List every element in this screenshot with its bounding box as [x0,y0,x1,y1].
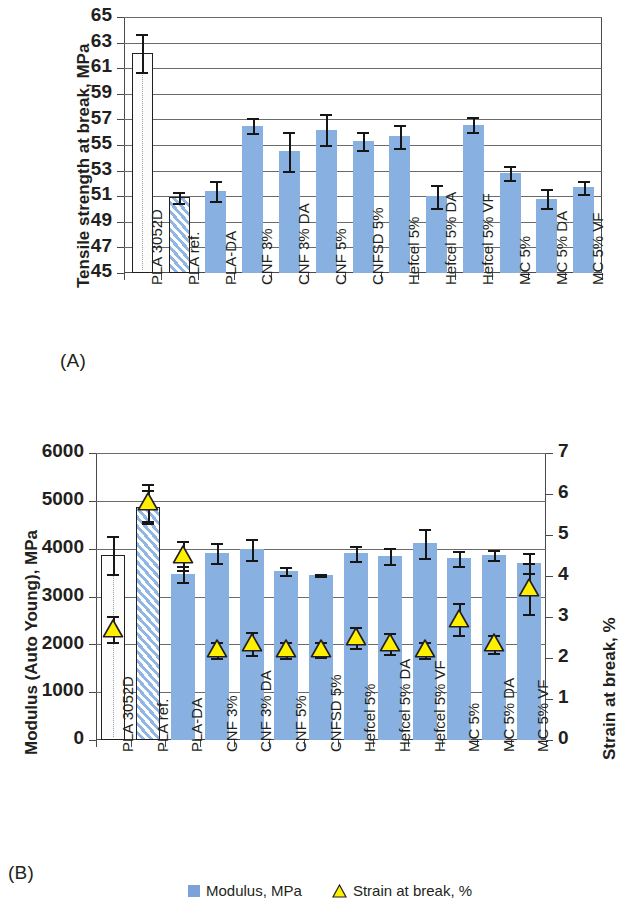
gridline [96,549,546,550]
x-tick-label: CNF 5% [332,228,349,285]
error-bar-cap [246,539,258,541]
x-tick-label: CNF 3% [258,228,275,285]
y-tick-mark [89,644,96,645]
error-bar-cap [523,614,535,616]
x-tick-label: CNF 3% [223,695,240,752]
error-bar [142,34,144,72]
x-tick-label: Hefcel 5% DA [396,659,413,752]
error-bar-cap [357,150,369,152]
error-bar [425,529,427,558]
error-bar-cap [107,536,119,538]
error-bar-cap [211,563,223,565]
error-bar-cap [177,541,189,543]
y-tick-label: 57 [0,108,112,127]
strain-triangle-icon [332,884,347,898]
error-bar [547,189,549,208]
x-tick-label: PLA-DA [188,698,205,752]
y-tick-label: 4000 [0,537,84,556]
x-tick-label: Hefcel 5% [405,217,422,285]
error-bar-cap [142,484,154,486]
strain-triangle-marker [310,639,332,658]
x-tick-label: PLA 3052D [119,676,136,752]
y-tick-mark [89,692,96,693]
error-bar-cap [142,521,154,523]
y-tick-label: 45 [0,261,112,280]
error-bar-cap [384,548,396,550]
error-bar-cap [453,551,465,553]
y-tick-label-secondary: 1 [558,687,584,706]
x-tick-label: CNF 3% DA [257,670,274,752]
y-tick-mark [117,43,124,44]
error-bar-cap [357,132,369,134]
y-tick-label: 63 [0,31,112,50]
error-bar-cap [283,132,295,134]
error-bar-cap [177,570,189,572]
strain-triangle-marker [448,609,470,628]
error-bar-cap [453,566,465,568]
error-bar-cap [578,194,590,196]
y-tick-mark [89,740,96,741]
error-bar [253,118,255,133]
y-tick-label: 53 [0,159,112,178]
error-bar-cap [315,576,327,578]
error-bar [400,125,402,148]
y-tick-mark [89,597,96,598]
y-tick-mark [117,94,124,95]
y-tick-label-secondary: 5 [558,523,584,542]
strain-triangle-marker [102,619,124,638]
legend-label-strain: Strain at break, % [353,882,472,899]
y-tick-mark [117,145,124,146]
x-tick-label: PLA 3052D [148,209,165,285]
error-bar [473,117,475,132]
gridline [124,68,602,69]
error-bar-cap [431,185,443,187]
panel-a-letter: (A) [60,350,86,372]
y-tick-label: 55 [0,133,112,152]
strain-triangle-marker [518,578,540,597]
error-bar-cap [384,564,396,566]
y-tick-label: 47 [0,236,112,255]
strain-triangle-marker [137,492,159,511]
y-tick-mark [117,273,124,274]
error-bar-cap [541,189,553,191]
error-bar-cap [107,574,119,576]
y-tick-label: 61 [0,56,112,75]
gridline [124,94,602,95]
error-bar-cap [467,117,479,119]
y-tick-label-secondary: 2 [558,646,584,665]
strain-triangle-marker [379,633,401,652]
error-bar-cap [280,575,292,577]
y-tick-mark [117,17,124,18]
chart-b-plot-area [96,453,546,740]
y-tick-label-secondary: 0 [558,728,584,747]
y-tick-mark-secondary [546,658,553,659]
error-bar [510,166,512,180]
gridline [96,501,546,502]
x-tick-label: CNFSD 5% [327,674,344,752]
y-tick-label: 59 [0,82,112,101]
error-bar-cap [136,34,148,36]
x-tick-label: Hefcel 5% [361,684,378,752]
y-tick-label: 51 [0,184,112,203]
error-bar [113,536,115,574]
error-bar-cap [453,603,465,605]
chart-panel-b: Modulus (Auto Young), MPa Strain at brea… [0,430,624,915]
y-tick-label: 6000 [0,441,84,460]
error-bar-cap [541,208,553,210]
y-tick-label: 1000 [0,680,84,699]
y-tick-label: 65 [0,5,112,24]
error-bar [216,181,218,201]
gridline [124,119,602,120]
y-tick-label-secondary: 7 [558,441,584,460]
error-bar-cap [320,145,332,147]
error-bar-cap [578,181,590,183]
y-tick-label: 5000 [0,489,84,508]
error-bar-cap [431,208,443,210]
x-tick-label: PLA-DA [222,231,239,285]
gridline [124,43,602,44]
chart-panel-a: Tensile strength at break, MPa 454749515… [0,0,624,400]
y-tick-mark-secondary [546,576,553,577]
y-tick-label-secondary: 4 [558,564,584,583]
y-tick-label: 2000 [0,633,84,652]
legend-label-modulus: Modulus, MPa [206,882,302,899]
